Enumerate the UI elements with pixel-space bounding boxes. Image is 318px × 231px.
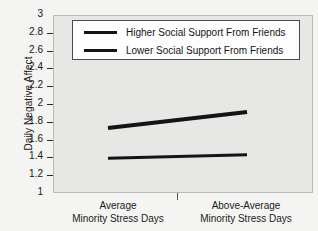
legend-item-lower-support: Lower Social Support From Friends	[73, 41, 299, 59]
y-tick-label: 1.2	[29, 168, 43, 179]
series-line-higher-support	[108, 112, 247, 128]
legend-line-swatch-higher	[84, 31, 117, 34]
legend: Higher Social Support From Friends Lower…	[72, 20, 300, 60]
y-tick-label: 2.4	[29, 61, 43, 72]
x-axis-center-tick	[177, 193, 178, 200]
y-tick-label: 2.8	[29, 26, 43, 37]
legend-label-lower: Lower Social Support From Friends	[126, 45, 283, 56]
legend-item-higher-support: Higher Social Support From Friends	[73, 23, 299, 41]
y-tick-label: 1.4	[29, 150, 43, 161]
x-category-line1: Above-Average	[180, 199, 312, 212]
x-category-line2: Minority Stress Days	[180, 212, 312, 225]
x-category-line2: Minority Stress Days	[60, 212, 176, 225]
y-tick-label: 1.6	[29, 133, 43, 144]
y-tick-label: 1.8	[29, 115, 43, 126]
y-tick-label: 2.6	[29, 44, 43, 55]
x-axis-category-above-average: Above-Average Minority Stress Days	[180, 199, 312, 225]
x-axis-category-average: Average Minority Stress Days	[60, 199, 176, 225]
x-category-line1: Average	[60, 199, 176, 212]
series-line-lower-support	[108, 155, 247, 159]
y-tick-label: 2	[37, 97, 43, 108]
y-tick-label: 2.2	[29, 79, 43, 90]
legend-label-higher: Higher Social Support From Friends	[126, 27, 286, 38]
y-tick-label: 1	[37, 186, 43, 197]
legend-line-swatch-lower	[84, 49, 117, 52]
y-tick-label: 3	[37, 8, 43, 19]
chart-figure: Daily Negative Affect 32.82.62.42.221.81…	[0, 0, 318, 231]
